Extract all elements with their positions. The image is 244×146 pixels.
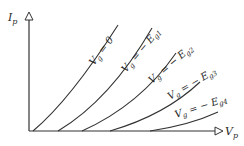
y-axis-arrow-icon [25,12,33,20]
svg-text:Vg = 0: Vg = 0 [87,34,118,69]
triode-characteristic-diagram: Ip Vp Vg = 0 Vg = − Eg1 Vg = − Eg2 Vg = … [0,0,244,146]
y-axis-label: Ip [7,11,17,26]
x-axis-label: Vp [225,125,238,140]
x-axis-arrow-icon [215,127,223,135]
curve-label-vg-0: Vg = 0 [87,34,118,69]
